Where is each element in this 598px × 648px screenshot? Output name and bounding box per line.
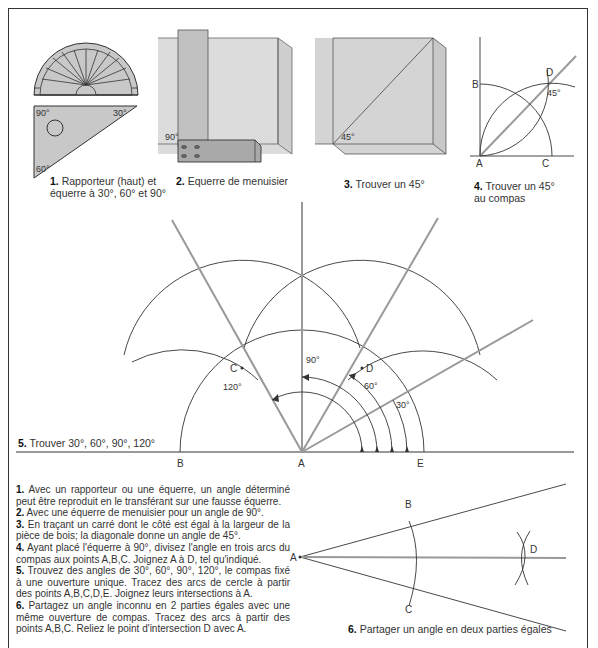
svg-text:C: C [230, 363, 237, 374]
svg-text:90°: 90° [36, 108, 50, 118]
angles-construction-diagram: C D 90° 120° 60° 30° B A E [16, 202, 574, 469]
svg-text:B: B [472, 79, 479, 90]
caption-fig4: 4. Trouver un 45° au compas [474, 180, 555, 204]
compass-45-diagram: B D 45° A C [470, 37, 576, 169]
svg-text:90°: 90° [306, 355, 320, 365]
caption-fig6: 6. Partager un angle en deux parties éga… [348, 623, 552, 635]
instruction-5: 5. Trouvez des angles de 30°, 60°, 90°, … [16, 565, 290, 600]
instruction-4: 4. Ayant placé l'équerre à 90°, divisez … [16, 542, 290, 565]
svg-text:120°: 120° [223, 382, 242, 392]
instruction-1: 1. Avec un rapporteur ou une équerre, un… [16, 484, 290, 507]
diagonal-board-illustration: 45° [315, 38, 446, 154]
svg-text:30°: 30° [113, 108, 127, 118]
instruction-6: 6. Partagez un angle inconnu en 2 partie… [16, 600, 290, 635]
svg-text:60°: 60° [36, 164, 50, 174]
caption-fig2: 2. Equerre de menuisier [176, 175, 288, 187]
caption-fig5: 5. Trouver 30°, 60°, 90°, 120° [18, 437, 155, 449]
svg-text:45°: 45° [341, 132, 355, 142]
svg-text:D: D [530, 544, 537, 555]
caption-fig3: 3. Trouver un 45° [344, 178, 425, 190]
instruction-2: 2. Avec une équerre de menuisier pour un… [16, 507, 290, 519]
svg-text:A: A [298, 458, 305, 469]
svg-text:90°: 90° [165, 132, 179, 142]
protractor-illustration [34, 43, 138, 95]
svg-text:30°: 30° [396, 400, 410, 410]
instructions-text: 1. Avec un rapporteur ou une équerre, un… [16, 484, 290, 635]
svg-text:60°: 60° [364, 381, 378, 391]
svg-text:E: E [417, 458, 424, 469]
svg-text:C: C [405, 604, 412, 615]
svg-text:D: D [546, 67, 553, 78]
try-square-illustration: 90° [158, 30, 292, 162]
svg-text:A: A [290, 552, 297, 563]
svg-text:45°: 45° [547, 88, 561, 98]
caption-fig1: 1. Rapporteur (haut) et équerre à 30°, 6… [50, 175, 166, 199]
svg-text:B: B [405, 499, 412, 510]
svg-text:B: B [177, 458, 184, 469]
svg-text:C: C [542, 158, 549, 169]
set-square-illustration: 90° 30° 60° [34, 106, 137, 178]
instruction-3: 3. En traçant un carré dont le côté est … [16, 519, 290, 542]
bisect-angle-diagram: A B C D [290, 484, 566, 631]
svg-text:A: A [476, 158, 483, 169]
svg-text:D: D [366, 363, 373, 374]
